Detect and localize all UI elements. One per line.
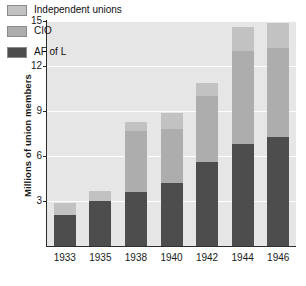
y-axis-tick-labels: 3691215 [0, 0, 42, 286]
bar-stack-1938[interactable] [125, 21, 147, 246]
y-tick-mark-6 [43, 156, 47, 157]
bar-stack-1946[interactable] [267, 21, 289, 246]
bar-segment-1935-independent-unions[interactable] [89, 191, 111, 202]
bar-segment-1938-af-of-l[interactable] [125, 192, 147, 246]
y-tick-mark-12 [43, 66, 47, 67]
x-axis-line [46, 246, 296, 247]
bar-stack-1944[interactable] [232, 21, 254, 246]
bar-segment-1933-independent-unions[interactable] [54, 203, 76, 215]
bar-stack-1935[interactable] [89, 21, 111, 246]
legend-swatch-icon [7, 47, 27, 58]
legend-swatch-icon [7, 26, 27, 37]
legend-swatch-icon [7, 5, 27, 16]
bar-segment-1946-af-of-l[interactable] [267, 137, 289, 247]
bar-segment-1946-cio[interactable] [267, 48, 289, 137]
bar-segment-1944-independent-unions[interactable] [232, 27, 254, 51]
bar-segment-1935-af-of-l[interactable] [89, 201, 111, 246]
bar-segment-1942-independent-unions[interactable] [196, 83, 218, 97]
x-tick-label-1940: 1940 [152, 252, 192, 263]
union-membership-bar-chart: Millions of union members 3691215 193319… [0, 0, 306, 286]
x-tick-label-1946: 1946 [258, 252, 298, 263]
legend-label: CIO [34, 25, 52, 36]
bar-stack-1940[interactable] [161, 21, 183, 246]
bar-segment-1940-independent-unions[interactable] [161, 113, 183, 130]
bar-segment-1942-cio[interactable] [196, 96, 218, 162]
y-tick-mark-9 [43, 111, 47, 112]
bar-segment-1940-af-of-l[interactable] [161, 183, 183, 246]
y-tick-label-9: 9 [2, 106, 42, 116]
plot-area [47, 21, 296, 246]
y-tick-label-3: 3 [2, 196, 42, 206]
x-tick-label-1933: 1933 [45, 252, 85, 263]
legend-label: Independent unions [34, 4, 122, 15]
x-tick-label-1942: 1942 [187, 252, 227, 263]
y-tick-label-6: 6 [2, 151, 42, 161]
x-tick-label-1938: 1938 [116, 252, 156, 263]
bar-segment-1940-cio[interactable] [161, 129, 183, 183]
y-tick-mark-3 [43, 201, 47, 202]
x-tick-label-1944: 1944 [223, 252, 263, 263]
bar-segment-1942-af-of-l[interactable] [196, 162, 218, 246]
bar-segment-1938-cio[interactable] [125, 131, 147, 193]
bar-stack-1942[interactable] [196, 21, 218, 246]
x-tick-label-1935: 1935 [80, 252, 120, 263]
bar-segment-1944-af-of-l[interactable] [232, 144, 254, 246]
y-tick-label-12: 12 [2, 61, 42, 71]
y-tick-mark-15 [43, 21, 47, 22]
bar-segment-1933-af-of-l[interactable] [54, 215, 76, 247]
legend-label: AF of L [34, 46, 66, 57]
bar-segment-1938-independent-unions[interactable] [125, 122, 147, 131]
bar-segment-1946-independent-unions[interactable] [267, 23, 289, 49]
bar-segment-1944-cio[interactable] [232, 51, 254, 144]
